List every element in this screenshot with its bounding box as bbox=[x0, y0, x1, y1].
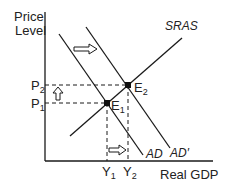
p1-label: P1 bbox=[31, 96, 45, 113]
y-axis-label-line1: Price bbox=[14, 9, 44, 24]
sras-label: SRAS bbox=[165, 19, 198, 33]
y2-label: Y2 bbox=[123, 164, 137, 181]
e2-label: E2 bbox=[134, 80, 148, 97]
e1-point bbox=[104, 100, 110, 106]
ad-as-diagram: Price Level Real GDP SRAS AD AD′ P2 P1 Y… bbox=[0, 0, 245, 187]
p2-label: P2 bbox=[31, 78, 45, 95]
ad-shift-arrow-icon bbox=[74, 44, 97, 54]
price-increase-arrow-icon bbox=[53, 87, 63, 100]
output-increase-arrow-icon bbox=[109, 145, 126, 155]
ad-label: AD bbox=[145, 147, 163, 161]
e1-label: E1 bbox=[111, 98, 125, 115]
y1-label: Y1 bbox=[102, 164, 116, 181]
ad-prime-label: AD′ bbox=[169, 146, 190, 160]
ad-curve bbox=[59, 34, 143, 155]
y-axis-label-line2: Level bbox=[15, 23, 46, 38]
x-axis-label: Real GDP bbox=[160, 167, 219, 182]
e2-point bbox=[125, 82, 131, 88]
